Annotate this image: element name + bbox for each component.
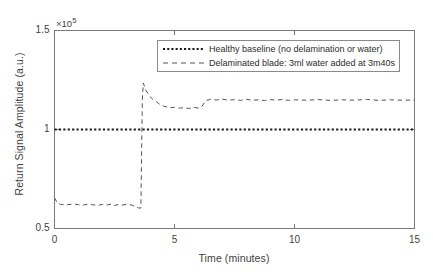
- y-tick-label: 1: [19, 123, 50, 134]
- x-tick-label: 10: [281, 234, 309, 245]
- y-tick-label: 0.5: [19, 222, 50, 233]
- legend-label-healthy-baseline: Healthy baseline (no delamination or wat…: [209, 44, 383, 54]
- x-tick-label: 0: [41, 234, 69, 245]
- legend-swatch-dotted-icon: [162, 44, 206, 54]
- series-line-1: [55, 83, 415, 208]
- legend-item-healthy-baseline: Healthy baseline (no delamination or wat…: [162, 42, 383, 56]
- chart-figure: ×105 Return Signal Amplitude (a.u.) Time…: [0, 0, 433, 278]
- x-tick-label: 15: [401, 234, 429, 245]
- x-tick-label: 5: [161, 234, 189, 245]
- legend-swatch-dashed-icon: [162, 58, 206, 68]
- chart-legend: Healthy baseline (no delamination or wat…: [157, 40, 400, 72]
- legend-item-delaminated-blade: Delaminated blade: 3ml water added at 3m…: [162, 56, 395, 70]
- y-tick-label: 1.5: [19, 24, 50, 35]
- legend-label-delaminated-blade: Delaminated blade: 3ml water added at 3m…: [209, 58, 395, 68]
- data-series-group: [55, 83, 415, 208]
